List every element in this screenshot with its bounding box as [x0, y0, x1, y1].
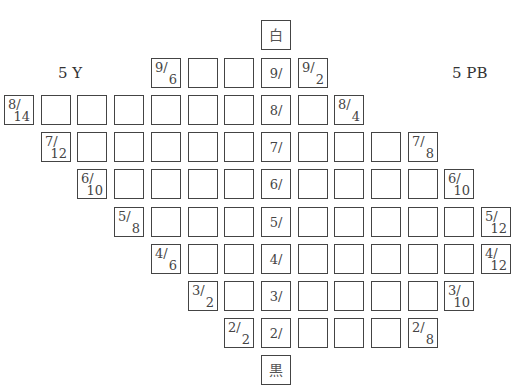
chroma-denominator: 10: [453, 296, 470, 309]
chip-box: [188, 169, 218, 199]
chip-box: [334, 169, 364, 199]
chip-box-left-end: 6/10: [77, 169, 107, 199]
chip-box-left-end: 2/2: [224, 318, 254, 348]
chip-box: [188, 132, 218, 162]
chip-box: [371, 132, 401, 162]
chip-box: [298, 281, 328, 311]
chroma-denominator: 2: [316, 73, 324, 86]
neutral-box: 7/: [261, 132, 291, 162]
hue-label-right: 5 PB: [452, 66, 487, 81]
chip-box-right-end: 4/12: [481, 244, 511, 274]
chroma-denominator: 2: [206, 296, 214, 309]
neutral-value-label: 3/: [262, 290, 290, 303]
chroma-denominator: 10: [86, 184, 103, 197]
chip-box: [41, 95, 71, 125]
munsell-hue-chart: 5 Y 5 PB 白黒9/69/9/28/148/8/47/127/7/86/1…: [0, 0, 525, 392]
chip-box: [334, 207, 364, 237]
value-numerator: 3/: [192, 284, 205, 297]
neutral-box: 4/: [261, 244, 291, 274]
chip-box: [298, 318, 328, 348]
chroma-denominator: 6: [169, 73, 177, 86]
value-numerator: 9/: [302, 61, 315, 74]
chip-box-left-end: 4/6: [151, 244, 181, 274]
chip-box: [408, 281, 438, 311]
chip-box: [408, 244, 438, 274]
chroma-denominator: 4: [352, 110, 360, 123]
black-box: 黒: [261, 355, 291, 385]
neutral-box: 5/: [261, 207, 291, 237]
chip-box-left-end: 3/2: [188, 281, 218, 311]
chip-box: [444, 207, 474, 237]
value-numerator: 7/: [412, 135, 425, 148]
chip-box: [334, 281, 364, 311]
chip-box-right-end: 7/8: [408, 132, 438, 162]
chroma-denominator: 8: [426, 333, 434, 346]
chip-box: [371, 244, 401, 274]
chroma-denominator: 12: [490, 259, 507, 272]
chip-box-right-end: 5/12: [481, 207, 511, 237]
neutral-value-label: 5/: [262, 216, 290, 229]
chip-box: [334, 244, 364, 274]
white-box-label: 白: [262, 28, 290, 42]
value-numerator: 8/: [338, 98, 351, 111]
chroma-denominator: 12: [50, 147, 67, 160]
chip-box: [224, 207, 254, 237]
chip-box: [114, 132, 144, 162]
chip-box: [371, 318, 401, 348]
chip-box: [224, 132, 254, 162]
chip-box: [224, 244, 254, 274]
chip-box-right-end: 9/2: [298, 58, 328, 88]
chroma-denominator: 2: [242, 333, 250, 346]
value-numerator: 9/: [155, 61, 168, 74]
chip-box: [151, 207, 181, 237]
neutral-value-label: 8/: [262, 104, 290, 117]
chip-box-left-end: 5/8: [114, 207, 144, 237]
chip-box: [298, 95, 328, 125]
neutral-box: 3/: [261, 281, 291, 311]
chip-box: [298, 207, 328, 237]
chip-box: [151, 95, 181, 125]
chip-box: [298, 169, 328, 199]
chroma-denominator: 6: [169, 259, 177, 272]
chip-box: [334, 318, 364, 348]
neutral-value-label: 4/: [262, 253, 290, 266]
chip-box: [371, 281, 401, 311]
chip-box: [188, 244, 218, 274]
chip-box: [298, 244, 328, 274]
chip-box-right-end: 6/10: [444, 169, 474, 199]
value-numerator: 2/: [412, 321, 425, 334]
chip-box: [114, 169, 144, 199]
chroma-denominator: 8: [426, 147, 434, 160]
neutral-value-label: 6/: [262, 178, 290, 191]
chip-box-right-end: 3/10: [444, 281, 474, 311]
chip-box: [77, 95, 107, 125]
chip-box: [188, 58, 218, 88]
neutral-value-label: 2/: [262, 327, 290, 340]
black-box-label: 黒: [262, 363, 290, 377]
chroma-denominator: 8: [132, 222, 140, 235]
chip-box: [224, 58, 254, 88]
chip-box: [408, 169, 438, 199]
chip-box: [408, 207, 438, 237]
value-numerator: 4/: [155, 247, 168, 260]
chip-box-left-end: 8/14: [4, 95, 34, 125]
chip-box: [151, 132, 181, 162]
chip-box: [444, 244, 474, 274]
value-numerator: 2/: [228, 321, 241, 334]
chroma-denominator: 10: [453, 184, 470, 197]
chroma-denominator: 14: [13, 110, 30, 123]
chip-box-right-end: 8/4: [334, 95, 364, 125]
chip-box: [151, 169, 181, 199]
chip-box: [224, 169, 254, 199]
neutral-box: 8/: [261, 95, 291, 125]
chip-box: [298, 132, 328, 162]
chip-box-right-end: 2/8: [408, 318, 438, 348]
white-box: 白: [261, 20, 291, 50]
neutral-box: 9/: [261, 58, 291, 88]
chip-box: [77, 132, 107, 162]
neutral-box: 6/: [261, 169, 291, 199]
chip-box: [114, 95, 144, 125]
chip-box: [334, 132, 364, 162]
chip-box: [371, 207, 401, 237]
neutral-value-label: 9/: [262, 67, 290, 80]
